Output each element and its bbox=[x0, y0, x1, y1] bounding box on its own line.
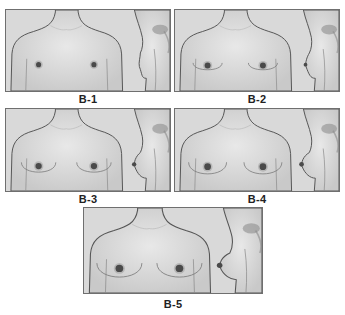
torso-illustration bbox=[84, 208, 262, 293]
panel-b4: B-4 bbox=[174, 108, 340, 206]
stage-label: B-2 bbox=[174, 93, 340, 105]
illustration-frame bbox=[5, 108, 171, 192]
panel-b3: B-3 bbox=[5, 108, 171, 206]
torso-illustration bbox=[175, 10, 339, 91]
panel-b1: B-1 bbox=[5, 9, 171, 106]
illustration-frame bbox=[83, 207, 263, 294]
stage-label: B-5 bbox=[83, 298, 263, 310]
stage-label: B-3 bbox=[5, 193, 171, 205]
stage-label: B-4 bbox=[174, 193, 340, 205]
illustration-frame bbox=[174, 108, 340, 192]
torso-illustration bbox=[175, 109, 339, 191]
stage-label: B-1 bbox=[5, 93, 171, 105]
torso-illustration bbox=[6, 10, 170, 91]
torso-illustration bbox=[6, 109, 170, 191]
illustration-frame bbox=[174, 9, 340, 92]
panel-b5: B-5 bbox=[83, 207, 263, 313]
panel-b2: B-2 bbox=[174, 9, 340, 106]
illustration-frame bbox=[5, 9, 171, 92]
